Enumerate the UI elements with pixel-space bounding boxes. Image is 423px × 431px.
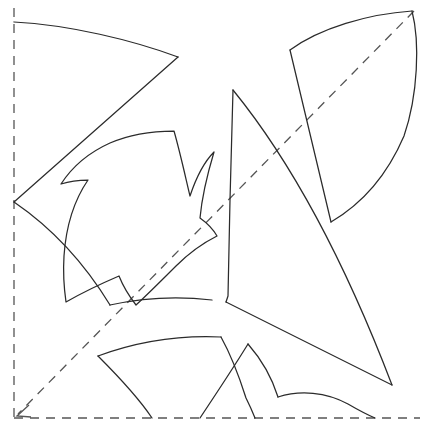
pattern-canvas bbox=[0, 0, 423, 431]
pattern-svg bbox=[0, 0, 423, 431]
canvas-background bbox=[0, 0, 423, 431]
